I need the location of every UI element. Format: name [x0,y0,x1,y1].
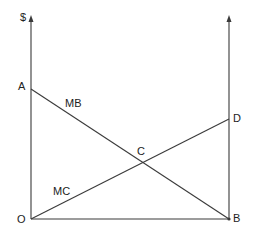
mb-label: MB [65,97,82,109]
mb-mc-diagram: $ A MB C MC O B D [0,0,254,235]
y-axis-label: $ [20,11,26,23]
diagram-canvas: $ A MB C MC O B D [0,0,254,235]
right-axis-arrow-icon [227,15,232,22]
left-axis-arrow-icon [29,15,34,22]
point-b-marker [227,217,230,220]
mc-label: MC [53,185,70,197]
point-o-label: O [17,213,26,225]
point-b-label: B [233,212,240,224]
point-a-label: A [18,80,26,92]
point-d-label: D [233,112,241,124]
mc-curve [31,119,229,219]
mb-curve [31,89,229,219]
point-c-label: C [137,145,145,157]
